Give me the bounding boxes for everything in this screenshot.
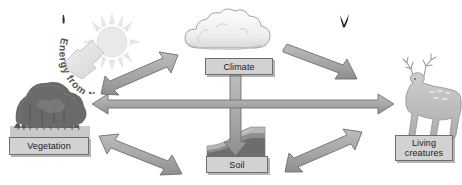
arrow-sun-to-vegetation: [61, 41, 104, 79]
node-label-soil[interactable]: Soil: [206, 156, 268, 173]
small-dark-check-mark: [340, 14, 349, 28]
soil-label-text: Soil: [229, 160, 244, 170]
vegetation-illustration: [10, 82, 90, 138]
arrow-climate-to-soil: [224, 75, 247, 156]
living-creatures-label-line1: Living: [412, 138, 436, 149]
arrow-vegetation-soil: [99, 134, 182, 175]
vegetation-label-text: Vegetation: [27, 141, 71, 151]
arrow-soil-living: [285, 129, 362, 172]
node-label-climate[interactable]: Climate: [205, 58, 273, 75]
arrow-vegetation-living-horizontal: [92, 94, 394, 114]
small-dark-tick-mark: [63, 15, 65, 24]
arrow-climate-to-living: [283, 44, 357, 79]
diagram-canvas: Energy from the sun Vegetation Climate S…: [0, 0, 462, 185]
arrow-vegetation-climate: [101, 52, 178, 95]
node-label-living-creatures[interactable]: Living creatures: [395, 135, 453, 161]
living-creatures-label-line2: creatures: [405, 148, 443, 159]
climate-label-text: Climate: [223, 62, 254, 72]
deer-illustration: [403, 54, 461, 141]
node-label-vegetation[interactable]: Vegetation: [9, 137, 89, 155]
cloud-illustration: [185, 9, 270, 50]
